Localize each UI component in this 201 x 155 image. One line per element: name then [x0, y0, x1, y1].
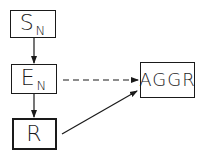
node-r-label: R	[26, 123, 42, 145]
node-r: R	[12, 118, 57, 150]
node-en-label: EN	[21, 67, 48, 92]
node-sn-label: SN	[20, 12, 47, 37]
node-aggr: AGGR	[140, 62, 195, 98]
node-aggr-label: AGGR	[139, 71, 195, 89]
node-sn: SN	[10, 10, 56, 38]
node-en: EN	[11, 64, 57, 94]
edge-r-to-aggr	[62, 91, 137, 134]
